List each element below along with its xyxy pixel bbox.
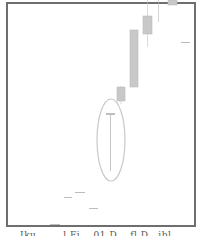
- candle-7: [130, 30, 138, 87]
- candlestick-plot: [0, 0, 208, 236]
- small-candles: [50, 193, 98, 225]
- rising-candles: [117, 0, 190, 104]
- figure-caption: ...Iku ... ...l Fi... 01 D... fl D...ibl: [10, 229, 208, 236]
- candle-10: [168, 0, 177, 5]
- candle-8: [143, 16, 152, 34]
- circled-candle: [106, 113, 115, 171]
- candle-6: [117, 87, 125, 101]
